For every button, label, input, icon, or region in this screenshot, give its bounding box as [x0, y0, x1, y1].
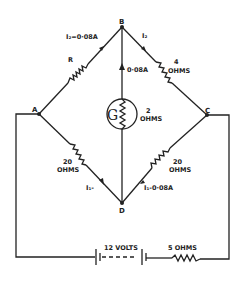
current-label-ad: I₁- [86, 184, 94, 192]
node-a-dot [37, 112, 41, 116]
resistor-value-dc: 20 [173, 158, 183, 166]
galvanometer-symbol: G [107, 107, 118, 123]
galvanometer-coil [120, 99, 125, 129]
arrow-icon [99, 46, 104, 51]
resistor-r [68, 64, 88, 83]
arrow-icon [119, 63, 125, 70]
node-label-d: D [119, 207, 125, 215]
battery-label: 12 VOLTS [104, 244, 138, 252]
resistor-20-ohms-right [151, 148, 170, 168]
node-label-c: C [205, 107, 210, 115]
resistor-5-ohms [172, 255, 200, 261]
series-resistor-label: 5 OHMS [168, 244, 197, 252]
node-label-a: A [32, 106, 38, 114]
galvanometer-value: 2 [146, 107, 151, 115]
resistor-unit-dc: OHMS [169, 166, 191, 174]
current-label-bd: 0·08A [127, 66, 148, 74]
resistor-label-r: R [68, 56, 73, 64]
resistor-20-ohms-left [70, 144, 86, 165]
resistor-value-ad: 20 [63, 158, 73, 166]
resistor-value-bc: 4 [174, 58, 179, 66]
node-label-b: B [119, 18, 124, 26]
current-label-bc: I₂ [142, 32, 147, 40]
branch-ad [39, 114, 122, 203]
resistor-unit-bc: OHMS [168, 67, 190, 75]
galvanometer-unit: OHMS [140, 115, 162, 123]
current-label-dc: I₁-0·08A [144, 184, 173, 192]
node-d-dot [120, 201, 124, 205]
current-label-ab: I₂=0·08A [66, 33, 98, 41]
circuit-diagram: B A C D I₂=0·08A R I₂ 4 OHMS 0·08A G 2 O… [0, 0, 244, 283]
resistor-unit-ad: OHMS [57, 166, 79, 174]
